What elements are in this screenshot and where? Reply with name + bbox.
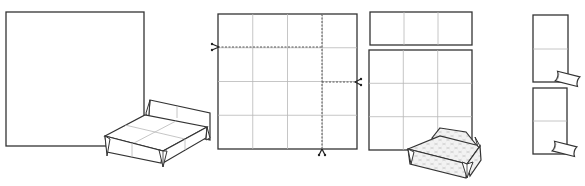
step-4	[533, 15, 580, 157]
step-3	[369, 12, 481, 178]
scissors-icon	[318, 149, 326, 156]
origami-diagram: Origami bed folding instructions: four s…	[0, 0, 585, 186]
step-2	[211, 14, 362, 156]
strip-piece-1x3	[370, 12, 472, 45]
step-1	[6, 12, 210, 167]
pillow-illustration-1	[555, 71, 580, 86]
